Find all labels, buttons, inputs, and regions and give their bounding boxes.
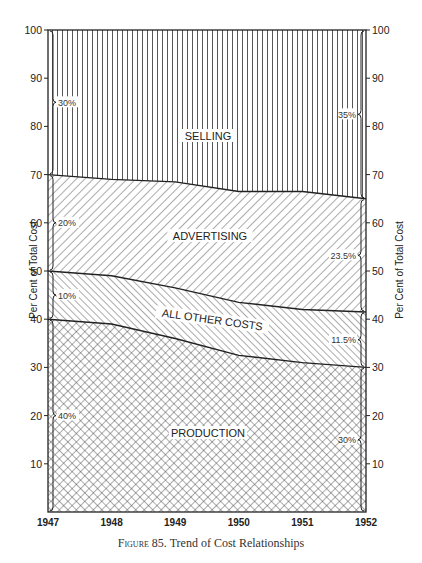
y-tick-label: 30 (30, 361, 42, 373)
end-percent-label: 35% (338, 110, 356, 120)
y-tick-label: 70 (30, 169, 42, 181)
y-tick-label: 80 (372, 120, 384, 132)
end-percent-label: 30% (338, 435, 356, 445)
y-tick-label: 50 (372, 265, 384, 277)
x-tick-label: 1947 (37, 517, 60, 528)
start-percent-label: 40% (58, 411, 76, 421)
figure-caption: Figure 85. Trend of Cost Relationships (0, 536, 422, 551)
end-percent-label: 23.5% (330, 251, 356, 261)
series-label-advertising: ADVERTISING (167, 229, 252, 242)
y-tick-label: 100 (24, 24, 42, 36)
y-axis-right: 102030405060708090100 (366, 24, 390, 470)
start-percent-label: 30% (58, 98, 76, 108)
y-tick-label: 40 (372, 313, 384, 325)
y-tick-label: 10 (372, 458, 384, 470)
x-tick-label: 1949 (164, 517, 187, 528)
y-tick-label: 30 (372, 361, 384, 373)
area-selling (48, 30, 366, 199)
x-tick-label: 1950 (228, 517, 251, 528)
y-axis-title-right: Per Cent of Total Cost (394, 221, 405, 319)
series-label-text: SELLING (185, 130, 231, 142)
y-tick-label: 20 (372, 410, 384, 422)
y-axis-title-left: Per Cent of Total Cost (28, 221, 39, 319)
stacked-area-chart: 40%30%10%11.5%20%23.5%30%35% 10203040506… (0, 0, 422, 563)
x-tick-label: 1948 (100, 517, 123, 528)
series-label-selling: SELLING (180, 129, 236, 142)
x-tick-label: 1951 (291, 517, 314, 528)
y-tick-label: 100 (372, 24, 390, 36)
y-tick-label: 70 (372, 169, 384, 181)
area-layers (48, 30, 366, 512)
y-tick-label: 80 (30, 120, 42, 132)
figure-label: Figure 85. (118, 536, 167, 550)
y-tick-label: 20 (30, 410, 42, 422)
y-tick-label: 10 (30, 458, 42, 470)
series-label-text: ADVERTISING (173, 230, 247, 242)
end-percent-label: 11.5% (331, 335, 356, 345)
start-percent-label: 20% (58, 218, 76, 228)
y-tick-label: 90 (30, 72, 42, 84)
series-label-text: PRODUCTION (171, 427, 245, 439)
x-axis: 194719481949195019511952 (37, 517, 378, 528)
series-label-production: PRODUCTION (169, 426, 247, 439)
y-tick-label: 90 (372, 72, 384, 84)
start-percent-label: 10% (58, 291, 76, 301)
x-tick-label: 1952 (355, 517, 378, 528)
y-tick-label: 60 (372, 217, 384, 229)
figure-caption-text: Trend of Cost Relationships (170, 536, 305, 550)
